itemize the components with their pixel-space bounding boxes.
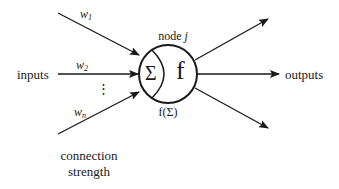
weight-label-wn: wn <box>74 106 86 120</box>
output-arrow-bottom <box>195 88 268 128</box>
activation-symbol: f <box>176 58 185 84</box>
input-arrow-wn <box>58 92 139 134</box>
connection-strength-line2: strength <box>68 165 110 178</box>
output-arrow-top <box>195 19 268 60</box>
weight-label-w1: w1 <box>80 8 92 22</box>
node-label: node j <box>158 30 188 42</box>
weight-label-w2: w2 <box>76 59 88 73</box>
input-arrow-w1 <box>58 13 139 55</box>
ellipsis-vertical: ⋮ <box>97 82 110 95</box>
connection-strength-line1: connection <box>60 149 117 162</box>
outputs-label: outputs <box>285 68 323 81</box>
sum-symbol: Σ <box>145 63 157 83</box>
inputs-label: inputs <box>17 68 49 81</box>
node-output-expression: f(Σ) <box>159 106 178 118</box>
